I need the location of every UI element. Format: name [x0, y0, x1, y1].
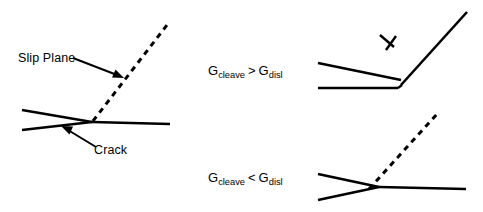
left-upper-crack-face [22, 110, 92, 122]
top-right-crack-tip-link [398, 85, 402, 88]
left-panel-group [22, 25, 170, 147]
left-slip-plane-dashed-line [93, 25, 167, 121]
formula-top-operator: > [248, 63, 256, 78]
slip-plane-label: Slip Plane [18, 52, 75, 65]
figure-canvas: Slip Plane Crack Gcleave>Gdisl Gcleave<G… [0, 0, 483, 212]
formula-bottom-g1: G [208, 170, 218, 185]
formula-top-sub2: disl [269, 70, 283, 80]
crack-label: Crack [94, 144, 127, 157]
formula-bottom-operator: < [248, 170, 256, 185]
top-right-upper-crack-face [318, 63, 401, 80]
formula-bottom-sub1: cleave [218, 177, 245, 187]
dislocation-icon [380, 35, 396, 50]
crack-arrow [61, 126, 96, 147]
top-right-panel-group [318, 12, 467, 88]
formula-bottom-sub2: disl [269, 177, 283, 187]
bottom-right-panel-group [318, 114, 466, 200]
left-crack-extension [92, 122, 170, 124]
bottom-right-crack-extension [379, 187, 466, 189]
formula-top-g1: G [208, 63, 218, 78]
formula-top-g2: G [259, 63, 269, 78]
cleavage-less-condition-label: Gcleave<Gdisl [208, 171, 283, 184]
left-lower-crack-face [22, 122, 92, 130]
bottom-right-slip-plane-dashed-line [369, 114, 437, 189]
formula-top-sub1: cleave [218, 70, 245, 80]
bottom-right-upper-crack-face [318, 174, 379, 187]
formula-bottom-g2: G [259, 170, 269, 185]
cleavage-greater-condition-label: Gcleave>Gdisl [208, 64, 283, 77]
top-right-cleavage-crack [401, 12, 467, 85]
slip-plane-arrow [73, 58, 124, 78]
